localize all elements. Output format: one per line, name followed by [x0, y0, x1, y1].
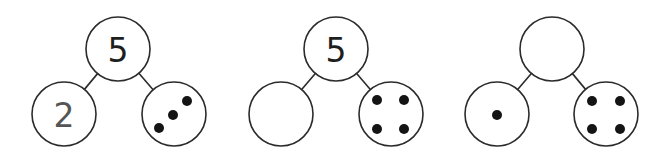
- number-bond-3: [465, 17, 638, 146]
- counter-dot: [399, 124, 409, 134]
- connector-right: [572, 74, 585, 90]
- counter-dot: [182, 96, 192, 106]
- counter-dot: [154, 123, 164, 133]
- connector-right: [139, 73, 153, 90]
- counter-dot: [168, 110, 178, 120]
- left-part-dots: [492, 110, 502, 120]
- counter-dot: [615, 124, 625, 134]
- left-part-number: 2: [54, 96, 75, 135]
- counter-dot: [372, 124, 382, 134]
- number-bond-diagram: 5 2 5: [0, 0, 665, 160]
- number-bond-1: 5 2: [32, 17, 206, 146]
- number-bond-2: 5: [249, 17, 423, 146]
- connector-left: [84, 74, 97, 90]
- connector-left: [302, 73, 316, 89]
- counter-dot: [399, 95, 409, 105]
- connector-right: [357, 73, 371, 89]
- whole-number: 5: [108, 31, 129, 70]
- whole-number: 5: [326, 31, 347, 70]
- counter-dot: [587, 96, 597, 106]
- counter-dot: [587, 124, 597, 134]
- connector-left: [518, 73, 532, 89]
- left-part-circle-empty[interactable]: [249, 82, 313, 146]
- right-part-circle[interactable]: [574, 82, 638, 146]
- counter-dot: [372, 95, 382, 105]
- right-part-circle[interactable]: [359, 82, 423, 146]
- counter-dot: [615, 96, 625, 106]
- whole-circle-empty[interactable]: [520, 17, 584, 81]
- counter-dot: [492, 110, 502, 120]
